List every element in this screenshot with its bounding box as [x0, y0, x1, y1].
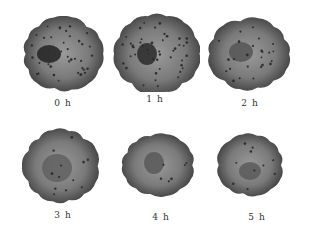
panel-1: 1 h — [110, 12, 200, 112]
time-label: 1 h — [110, 94, 200, 104]
cell-image — [18, 128, 108, 208]
panel-3: 3 h — [18, 128, 108, 227]
cell-image — [205, 16, 295, 96]
panel-2: 2 h — [205, 16, 295, 116]
time-label: 0 h — [18, 98, 108, 108]
panel-4: 4 h — [116, 130, 206, 227]
panel-5: 5 h — [212, 130, 302, 227]
time-label: 4 h — [116, 212, 206, 222]
cell-image — [116, 130, 206, 210]
time-label: 5 h — [212, 212, 302, 222]
panel-0: 0 h — [18, 16, 108, 116]
cell-image — [212, 130, 302, 210]
cell-image — [18, 16, 108, 96]
time-label: 2 h — [205, 98, 295, 108]
time-label: 3 h — [18, 210, 108, 220]
cell-image — [110, 12, 200, 92]
